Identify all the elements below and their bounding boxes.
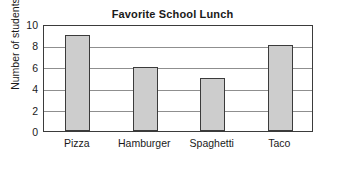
x-axis-tick-label: Pizza: [43, 136, 111, 150]
bar: [200, 78, 225, 132]
bar: [268, 45, 293, 131]
y-axis-tick-label: 8: [14, 40, 38, 52]
y-axis-tick-label: 6: [14, 62, 38, 74]
y-axis-tick-label: 10: [14, 19, 38, 31]
bar: [133, 67, 158, 131]
x-axis-tick-labels: PizzaHamburgerSpaghettiTaco: [43, 136, 313, 152]
plot-area: [43, 25, 313, 132]
x-axis-tick-label: Taco: [246, 136, 314, 150]
bar-chart-figure: Favorite School Lunch Number of students…: [0, 0, 345, 171]
bar: [65, 35, 90, 131]
y-axis-tick-label: 0: [14, 126, 38, 138]
x-axis-tick-label: Spaghetti: [178, 136, 246, 150]
y-axis-tick-label: 2: [14, 105, 38, 117]
x-axis-tick-label: Hamburger: [111, 136, 179, 150]
y-axis-tick-label: 4: [14, 83, 38, 95]
page-title: Favorite School Lunch: [0, 8, 345, 20]
